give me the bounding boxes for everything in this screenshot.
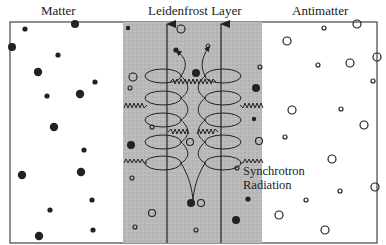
diagram-canvas	[0, 0, 386, 245]
title-matter: Matter	[41, 3, 76, 19]
diagram-frame	[10, 22, 377, 243]
synchrotron-label-line1: Synchrotron	[243, 164, 305, 179]
title-leidenfrost-layer: Leidenfrost Layer	[148, 3, 241, 19]
leidenfrost-band	[123, 22, 262, 243]
synchrotron-label-line2: Radiation	[243, 178, 292, 193]
title-antimatter: Antimatter	[292, 3, 348, 19]
